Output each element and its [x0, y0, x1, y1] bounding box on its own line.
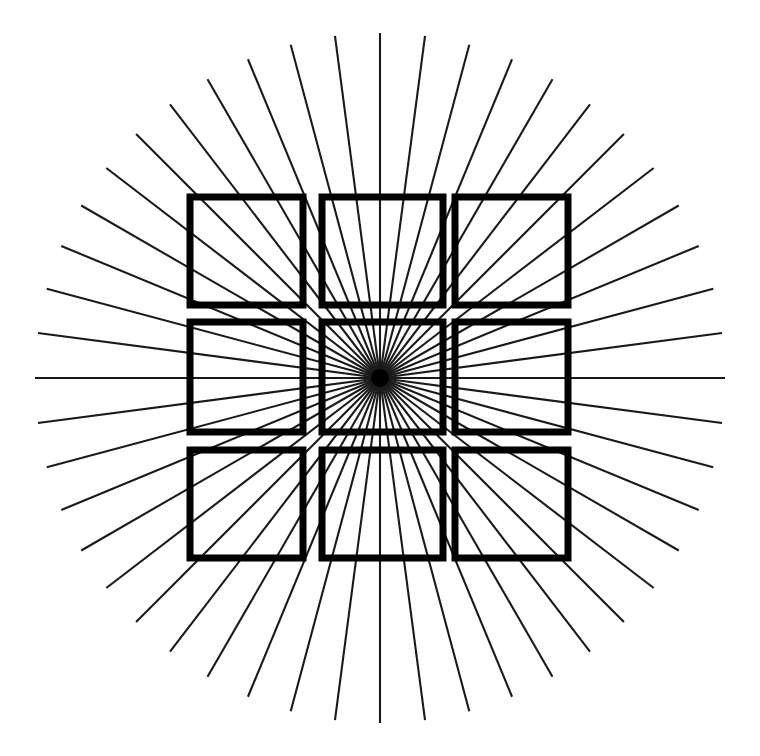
illusion-canvas	[0, 0, 760, 756]
illusion-figure	[0, 0, 760, 756]
burst-center-hub	[371, 369, 389, 387]
